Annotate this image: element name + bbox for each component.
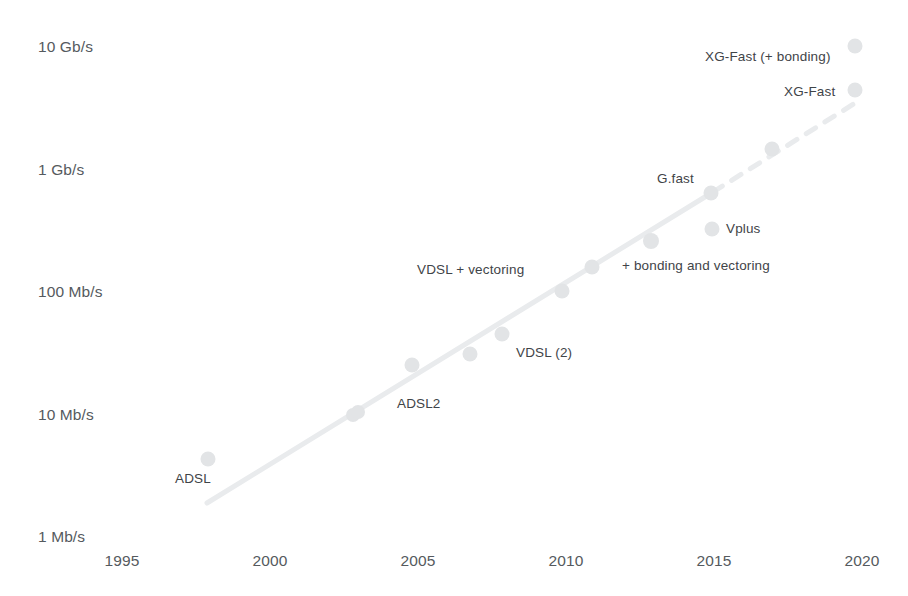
data-point-marker[interactable]	[495, 327, 510, 342]
data-point-label: XG-Fast (+ bonding)	[705, 49, 831, 64]
data-point-marker[interactable]	[643, 233, 659, 249]
data-point-marker[interactable]	[351, 405, 365, 419]
data-point-label: XG-Fast	[784, 84, 835, 99]
data-point-label: G.fast	[657, 171, 694, 186]
trend-line-group	[207, 100, 860, 503]
data-point-label: ADSL2	[397, 396, 441, 411]
data-point-markers	[201, 39, 863, 467]
data-point-marker[interactable]	[405, 358, 420, 373]
y-axis-tick-label: 100 Mb/s	[38, 283, 103, 301]
y-axis-tick-label: 10 Gb/s	[38, 38, 93, 56]
data-point-label: VDSL (2)	[516, 345, 572, 360]
data-point-marker[interactable]	[463, 347, 478, 362]
data-point-marker[interactable]	[704, 186, 719, 201]
chart-plot-svg	[0, 0, 908, 596]
data-point-marker[interactable]	[555, 284, 570, 299]
x-axis-tick-label: 2000	[230, 552, 310, 570]
x-axis-tick-label: 2010	[526, 552, 606, 570]
x-axis-tick-label: 1995	[82, 552, 162, 570]
data-point-label: + bonding and vectoring	[622, 258, 770, 273]
x-axis-tick-label: 2005	[378, 552, 458, 570]
y-axis-tick-label: 1 Gb/s	[38, 161, 84, 179]
data-point-marker[interactable]	[585, 260, 600, 275]
x-axis-tick-label: 2020	[822, 552, 902, 570]
data-point-label: Vplus	[726, 221, 761, 236]
data-point-marker[interactable]	[705, 222, 720, 237]
data-point-marker[interactable]	[201, 452, 216, 467]
data-point-marker[interactable]	[848, 83, 863, 98]
data-point-label: ADSL	[175, 471, 211, 486]
data-point-marker[interactable]	[848, 39, 863, 54]
data-point-marker[interactable]	[765, 142, 780, 157]
x-axis-tick-label: 2015	[674, 552, 754, 570]
data-point-label: VDSL + vectoring	[417, 262, 524, 277]
chart-canvas: 10 Gb/s1 Gb/s100 Mb/s10 Mb/s1 Mb/s 19952…	[0, 0, 908, 596]
y-axis-tick-label: 10 Mb/s	[38, 406, 94, 424]
trend-line-dashed	[713, 100, 860, 192]
y-axis-tick-label: 1 Mb/s	[38, 528, 85, 546]
trend-line-solid	[207, 192, 713, 503]
